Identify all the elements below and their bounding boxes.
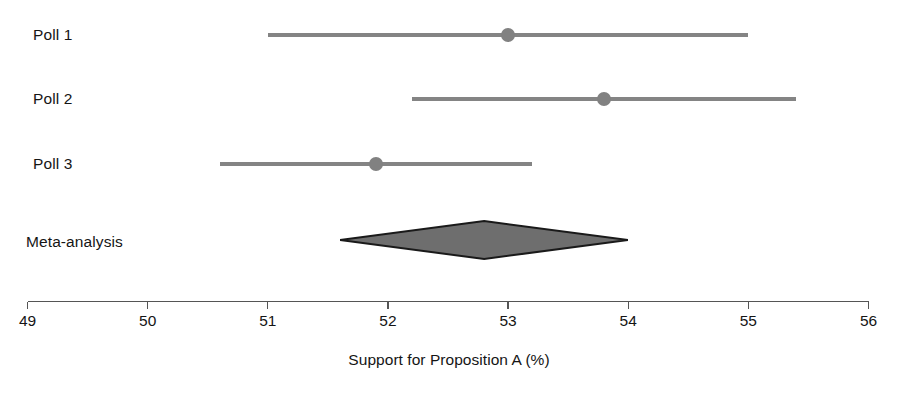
x-axis [0,0,899,399]
x-tick-label-49: 49 [19,312,36,330]
x-tick-label-54: 54 [620,312,637,330]
forest-plot: Poll 1 Poll 2 Poll 3 Meta-analysis Suppo… [0,0,899,399]
figure-caption-cropped [0,388,899,397]
x-tick-label-55: 55 [740,312,757,330]
x-tick-label-51: 51 [259,312,276,330]
x-tick-label-50: 50 [139,312,156,330]
x-axis-title: Support for Proposition A (%) [348,351,549,369]
x-tick-label-52: 52 [379,312,396,330]
x-tick-label-53: 53 [499,312,516,330]
x-tick-label-56: 56 [860,312,877,330]
